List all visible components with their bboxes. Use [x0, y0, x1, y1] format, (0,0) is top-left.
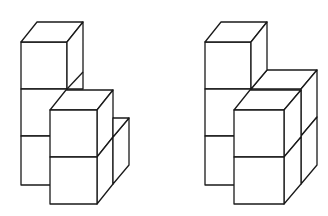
cube-figures [0, 0, 328, 216]
right-cube-structure [205, 22, 317, 204]
left-cube-structure [21, 22, 129, 204]
